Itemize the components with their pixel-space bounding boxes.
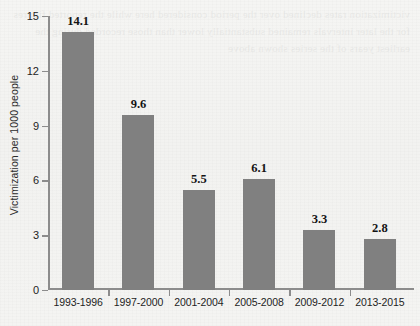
- bar-group: 14.1: [48, 16, 108, 290]
- y-tick-label-9: 9: [33, 120, 39, 132]
- y-tick-label-15: 15: [27, 10, 39, 22]
- y-tick-label-12: 12: [27, 65, 39, 77]
- bar-chart: Victimization per 1000 people 03691215 1…: [0, 0, 420, 326]
- x-tick-label-2013-2015: 2013-2015: [355, 296, 404, 308]
- x-tick-label-2009-2012: 2009-2012: [295, 296, 344, 308]
- x-tick-label-1997-2000: 1997-2000: [114, 296, 163, 308]
- bar-1993-1996[interactable]: [62, 32, 94, 290]
- bar-2013-2015[interactable]: [364, 239, 396, 290]
- bar-2005-2008[interactable]: [243, 179, 275, 290]
- y-tick-0: [42, 290, 48, 291]
- x-tick-label-2005-2008: 2005-2008: [234, 296, 283, 308]
- plot-area: 03691215 14.19.65.56.13.32.8: [48, 16, 410, 290]
- bar-1997-2000[interactable]: [122, 115, 154, 290]
- y-tick-label-3: 3: [33, 229, 39, 241]
- bar-value-label: 6.1: [251, 161, 267, 176]
- bar-group: 6.1: [229, 16, 289, 290]
- bar-series: 14.19.65.56.13.32.8: [48, 16, 410, 290]
- bar-group: 3.3: [289, 16, 349, 290]
- y-axis-label: Victimization per 1000 people: [4, 0, 24, 290]
- x-axis-tick-labels: 1993-19961997-20002001-20042005-20082009…: [48, 296, 410, 316]
- bar-2001-2004[interactable]: [183, 190, 215, 290]
- bar-value-label: 3.3: [312, 212, 328, 227]
- bar-2009-2012[interactable]: [303, 230, 335, 290]
- bar-value-label: 5.5: [191, 172, 207, 187]
- bar-group: 9.6: [108, 16, 168, 290]
- x-tick-label-2001-2004: 2001-2004: [174, 296, 223, 308]
- bar-value-label: 9.6: [131, 97, 147, 112]
- bar-group: 5.5: [169, 16, 229, 290]
- bar-group: 2.8: [350, 16, 410, 290]
- y-tick-label-0: 0: [33, 284, 39, 296]
- x-tick-label-1993-1996: 1993-1996: [53, 296, 102, 308]
- y-axis-label-text: Victimization per 1000 people: [8, 75, 20, 215]
- y-tick-label-6: 6: [33, 174, 39, 186]
- bar-value-label: 2.8: [372, 221, 388, 236]
- bar-value-label: 14.1: [67, 14, 89, 29]
